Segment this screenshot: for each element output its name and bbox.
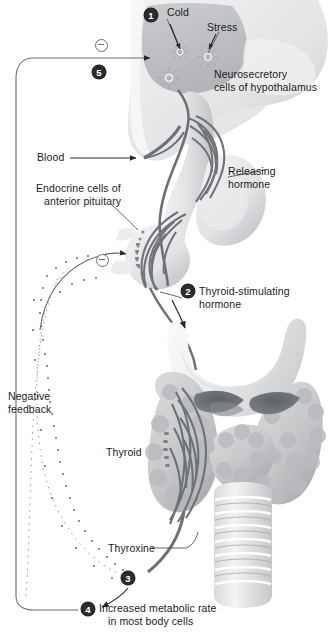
thyroxine-diffusion-dots	[32, 255, 124, 579]
label-cold: Cold	[167, 6, 189, 19]
label-metabolic-line1: Increased metabolic rate	[99, 602, 216, 615]
diagram-canvas: 1 2 3 4 5 Cold Stress Neurosecretory cel…	[0, 0, 334, 639]
step-marker-1: 1	[144, 8, 158, 22]
leader-endocrine-cells	[112, 205, 138, 230]
label-negative-feedback-line2: feedback	[8, 403, 51, 416]
label-tsh-line1: Thyroid-stimulating	[199, 285, 290, 298]
label-releasing-hormone-line1: Releasing	[228, 165, 276, 178]
label-stress: Stress	[207, 21, 237, 34]
label-negative-feedback-line1: Negative	[8, 390, 50, 403]
minus-sign-hypothalamus	[95, 39, 108, 52]
anatomy-artwork	[0, 0, 334, 639]
step-marker-5: 5	[92, 65, 106, 79]
trachea-group	[214, 482, 272, 608]
label-thyroxine: Thyroxine	[108, 542, 155, 555]
step-marker-3: 3	[121, 571, 135, 585]
label-neurosecretory-line2: cells of hypothalamus	[214, 81, 317, 94]
label-endocrine-cells-line2: anterior pituitary	[44, 195, 121, 208]
minus-sign-pituitary	[96, 254, 109, 267]
label-neurosecretory-line1: Neurosecretory	[214, 68, 287, 81]
negative-feedback-loop	[16, 58, 78, 610]
label-tsh-line2: hormone	[199, 298, 241, 311]
label-releasing-hormone-line2: hormone	[228, 178, 270, 191]
step-marker-4: 4	[81, 602, 95, 616]
label-endocrine-cells-line1: Endocrine cells of	[36, 182, 121, 195]
step-marker-2: 2	[181, 284, 195, 298]
label-thyroid: Thyroid	[106, 446, 142, 459]
label-blood: Blood	[37, 151, 64, 164]
label-metabolic-line2: in most body cells	[108, 615, 193, 628]
leader-tsh	[160, 292, 182, 298]
